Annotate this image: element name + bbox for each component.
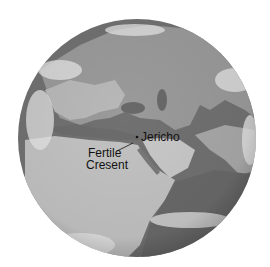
jericho-label: Jericho [141,131,180,143]
jericho-marker [136,136,139,139]
globe-map [0,0,270,267]
globe-svg [0,0,270,267]
fertile-crescent-label-line2: Cresent [86,159,128,171]
